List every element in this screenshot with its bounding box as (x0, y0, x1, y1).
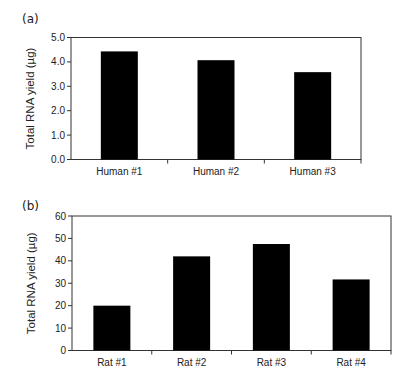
chart-b: 0102030405060Rat #1Rat #2Rat #3Rat #4Tot… (0, 0, 407, 379)
y-tick-label: 50 (55, 233, 67, 244)
bar (173, 256, 210, 350)
bar (333, 279, 370, 350)
x-category-label: Rat #1 (97, 357, 127, 368)
bar (253, 244, 290, 350)
bar (93, 306, 130, 351)
y-tick-label: 30 (55, 278, 67, 289)
y-tick-label: 10 (55, 323, 67, 334)
x-category-label: Rat #3 (257, 357, 287, 368)
y-tick-label: 0 (60, 345, 66, 356)
x-category-label: Rat #2 (177, 357, 207, 368)
y-axis-title: Total RNA yield (µg) (25, 232, 37, 334)
y-tick-label: 60 (55, 211, 67, 222)
x-category-label: Rat #4 (336, 357, 366, 368)
y-tick-label: 40 (55, 255, 67, 266)
y-tick-label: 20 (55, 300, 67, 311)
